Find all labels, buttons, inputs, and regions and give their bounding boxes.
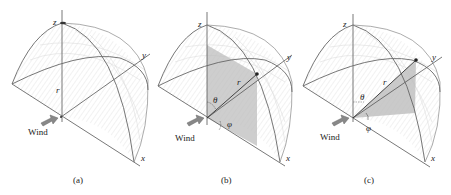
- y-label: y: [431, 52, 436, 62]
- point-marker: [414, 58, 418, 62]
- wind-arrow-icon: [41, 115, 58, 126]
- wind-label: Wind: [175, 133, 195, 143]
- y-label: y: [286, 52, 291, 62]
- y-label: y: [141, 50, 146, 60]
- caption-c: (c): [364, 175, 374, 185]
- z-label: z: [52, 17, 57, 27]
- point-marker: [255, 72, 259, 76]
- caption-a: (a): [73, 175, 83, 185]
- panel-a: z y x r Wind (a): [12, 10, 150, 185]
- x-label: x: [140, 153, 145, 163]
- r-label: r: [56, 85, 60, 95]
- wind-label: Wind: [320, 132, 340, 142]
- theta-label: θ: [360, 92, 365, 102]
- r-label: r: [237, 77, 241, 87]
- z-label: z: [197, 19, 202, 29]
- wind-arrow-icon: [332, 115, 349, 126]
- theta-label: θ: [213, 95, 218, 105]
- panel-b: z y x r θ φ Wind (b): [158, 12, 292, 185]
- figure-canvas: z y x r Wind (a) z y x r θ φ Wind: [0, 0, 451, 195]
- wind-label: Wind: [28, 127, 48, 137]
- wind-arrow-icon: [187, 115, 204, 126]
- z-label: z: [342, 19, 347, 29]
- origin-point: [60, 116, 62, 118]
- x-label: x: [430, 153, 435, 163]
- x-label: x: [285, 153, 290, 163]
- panel-c: z y x r θ φ Wind (c): [303, 14, 442, 185]
- caption-b: (b): [221, 175, 232, 185]
- phi-label: φ: [227, 119, 232, 129]
- phi-label: φ: [366, 123, 371, 133]
- top-marker: [60, 22, 66, 25]
- r-label: r: [383, 77, 387, 87]
